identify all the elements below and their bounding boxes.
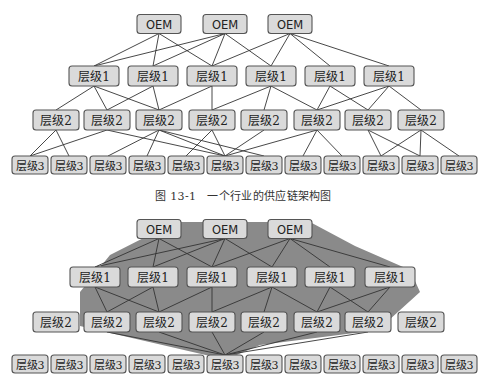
svg-text:层级3: 层级3 <box>55 359 84 372</box>
figure1-tier1-node-1: 层级1 <box>69 66 119 86</box>
svg-text:层级2: 层级2 <box>405 114 437 128</box>
svg-text:层级2: 层级2 <box>196 114 228 128</box>
figure1-tier3-node-11: 层级3 <box>402 156 438 174</box>
svg-text:层级2: 层级2 <box>405 316 437 330</box>
figure1-tier2-node-6: 层级2 <box>294 110 340 130</box>
svg-text:层级1: 层级1 <box>256 271 288 285</box>
svg-text:层级3: 层级3 <box>328 359 357 372</box>
figure2-tier1-node-3: 层级1 <box>187 267 237 287</box>
figure1-tier2-node-2: 层级2 <box>84 110 130 130</box>
svg-text:层级3: 层级3 <box>289 160 318 173</box>
svg-text:层级3: 层级3 <box>406 160 435 173</box>
svg-text:层级1: 层级1 <box>137 271 169 285</box>
figure2-tier1-node-5: 层级1 <box>305 267 355 287</box>
figure2-tier2-node-7: 层级2 <box>345 312 391 332</box>
svg-text:OEM: OEM <box>146 18 172 32</box>
figure2-tier3-node-11: 层级3 <box>402 355 438 373</box>
figure2-tier1-node-1: 层级1 <box>70 267 120 287</box>
figure1-tier3-node-2: 层级3 <box>51 156 87 174</box>
figure-caption: 图 13-1 一个行业的供应链架构图 <box>0 187 487 203</box>
svg-text:层级3: 层级3 <box>55 160 84 173</box>
figure1-oem-node-2: OEM <box>203 15 247 34</box>
svg-text:层级3: 层级3 <box>133 359 162 372</box>
svg-text:层级3: 层级3 <box>250 359 279 372</box>
svg-text:OEM: OEM <box>277 18 303 32</box>
svg-text:层级2: 层级2 <box>248 114 280 128</box>
figure2-tier1-node-2: 层级1 <box>128 267 178 287</box>
svg-text:层级2: 层级2 <box>91 316 123 330</box>
svg-text:层级2: 层级2 <box>40 114 72 128</box>
svg-text:层级1: 层级1 <box>374 271 406 285</box>
figure2-tier2-node-5: 层级2 <box>241 312 287 332</box>
figure1-tier2-node-8: 层级2 <box>398 110 444 130</box>
svg-text:层级1: 层级1 <box>196 70 228 84</box>
svg-text:层级1: 层级1 <box>314 271 346 285</box>
figure1-tier3-node-12: 层级3 <box>441 156 477 174</box>
svg-text:层级1: 层级1 <box>79 271 111 285</box>
svg-text:层级3: 层级3 <box>94 359 123 372</box>
figure2-tier3-node-8: 层级3 <box>285 355 321 373</box>
svg-text:层级1: 层级1 <box>78 70 110 84</box>
svg-text:层级3: 层级3 <box>94 160 123 173</box>
svg-text:OEM: OEM <box>212 223 238 237</box>
svg-text:层级3: 层级3 <box>289 359 318 372</box>
svg-text:层级3: 层级3 <box>172 160 201 173</box>
figure1-tier2-node-4: 层级2 <box>189 110 235 130</box>
figure2-oem-node-1: OEM <box>137 220 181 239</box>
figure1-tier2-node-3: 层级2 <box>136 110 182 130</box>
figure1-tier3-node-10: 层级3 <box>363 156 399 174</box>
svg-text:层级1: 层级1 <box>255 70 287 84</box>
figure1-tier3-node-9: 层级3 <box>324 156 360 174</box>
svg-text:层级2: 层级2 <box>301 316 333 330</box>
svg-text:层级1: 层级1 <box>314 70 346 84</box>
svg-text:层级1: 层级1 <box>196 271 228 285</box>
figure1-tier1-node-5: 层级1 <box>305 66 355 86</box>
figure1-tier3-node-4: 层级3 <box>129 156 165 174</box>
figure1-edges <box>30 34 459 157</box>
svg-text:层级3: 层级3 <box>250 160 279 173</box>
svg-text:层级3: 层级3 <box>211 359 240 372</box>
figure1-oem-node-1: OEM <box>137 15 181 34</box>
figure2-oem-node-2: OEM <box>203 220 247 239</box>
figure2-tier1-node-6: 层级1 <box>365 267 415 287</box>
svg-text:层级1: 层级1 <box>373 70 405 84</box>
figure2-tier2-node-4: 层级2 <box>189 312 235 332</box>
figure2-tier3-node-3: 层级3 <box>90 355 126 373</box>
figure1-tier3-node-8: 层级3 <box>285 156 321 174</box>
figure2-tier3-node-1: 层级3 <box>12 355 48 373</box>
svg-text:层级2: 层级2 <box>301 114 333 128</box>
svg-text:层级2: 层级2 <box>352 316 384 330</box>
figure1-tier3-node-7: 层级3 <box>246 156 282 174</box>
figure2-tier3-node-10: 层级3 <box>363 355 399 373</box>
svg-text:层级2: 层级2 <box>40 316 72 330</box>
figure2-tier2-node-8: 层级2 <box>398 312 444 332</box>
svg-text:层级3: 层级3 <box>16 160 45 173</box>
svg-text:层级1: 层级1 <box>137 70 169 84</box>
figure1-tier3-node-5: 层级3 <box>168 156 204 174</box>
figure2-tier1-node-4: 层级1 <box>247 267 297 287</box>
figure2-tier2-node-2: 层级2 <box>84 312 130 332</box>
figure2-tier3-node-4: 层级3 <box>129 355 165 373</box>
figure1-tier2-node-5: 层级2 <box>241 110 287 130</box>
figure2-tier3-node-12: 层级3 <box>441 355 477 373</box>
figure1-tier3-node-1: 层级3 <box>12 156 48 174</box>
svg-text:层级3: 层级3 <box>172 359 201 372</box>
figure1-tier2-node-7: 层级2 <box>345 110 391 130</box>
figure1-tier1-node-4: 层级1 <box>246 66 296 86</box>
svg-text:层级2: 层级2 <box>248 316 280 330</box>
figure2-tier3-node-6: 层级3 <box>207 355 243 373</box>
svg-text:层级3: 层级3 <box>16 359 45 372</box>
figure1-tier1-node-6: 层级1 <box>364 66 414 86</box>
figure1-tier3-node-3: 层级3 <box>90 156 126 174</box>
figure1-tier3-node-6: 层级3 <box>207 156 243 174</box>
svg-text:层级3: 层级3 <box>211 160 240 173</box>
svg-text:层级2: 层级2 <box>352 114 384 128</box>
svg-text:层级3: 层级3 <box>367 160 396 173</box>
svg-text:层级3: 层级3 <box>445 160 474 173</box>
figure2-tier2-node-3: 层级2 <box>136 312 182 332</box>
svg-text:OEM: OEM <box>277 223 303 237</box>
svg-text:层级3: 层级3 <box>445 359 474 372</box>
svg-text:层级3: 层级3 <box>406 359 435 372</box>
svg-text:层级2: 层级2 <box>143 316 175 330</box>
svg-text:层级2: 层级2 <box>91 114 123 128</box>
